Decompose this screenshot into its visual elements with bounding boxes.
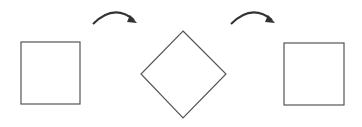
rotation-diagram	[0, 0, 362, 127]
square-initial	[21, 42, 80, 104]
square-final	[284, 43, 344, 105]
rotate-arrow-1-icon	[93, 12, 137, 24]
square-rotated	[141, 31, 226, 118]
rotate-arrow-2-icon	[231, 12, 275, 24]
